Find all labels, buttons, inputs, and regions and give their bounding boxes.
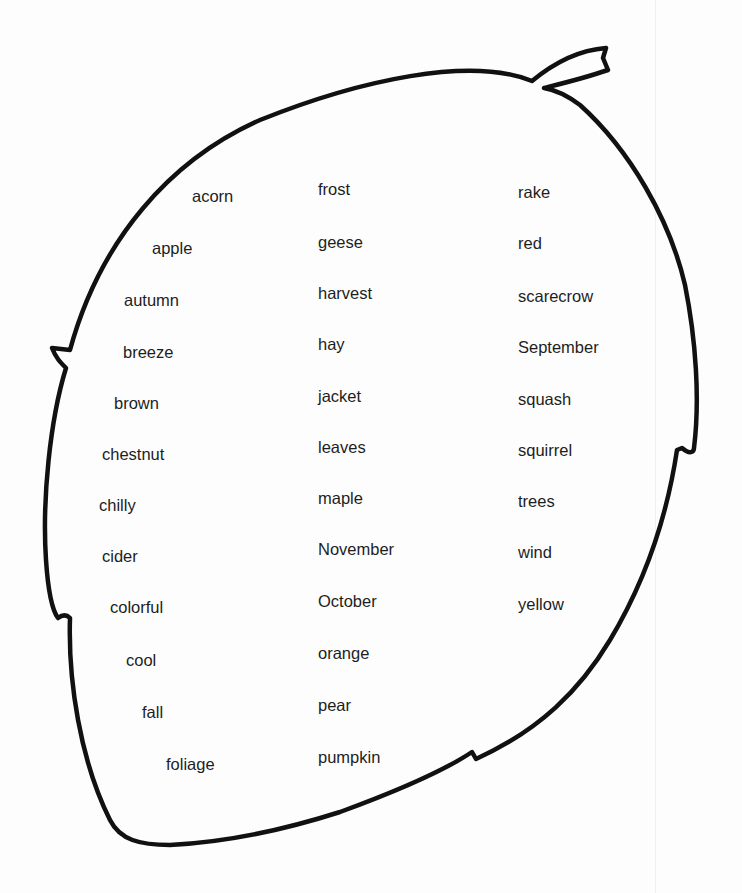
word-list-item: yellow bbox=[518, 594, 564, 614]
word-list-item: leaves bbox=[318, 437, 366, 457]
word-list-item: squirrel bbox=[518, 440, 572, 460]
word-list-item: apple bbox=[152, 238, 192, 258]
word-list-item: September bbox=[518, 337, 599, 357]
word-list-item: scarecrow bbox=[518, 286, 593, 306]
word-list-item: trees bbox=[518, 491, 555, 511]
word-list-item: foliage bbox=[166, 754, 215, 774]
word-list-item: cool bbox=[126, 650, 156, 670]
word-list-item: maple bbox=[318, 488, 363, 508]
word-list-item: pumpkin bbox=[318, 747, 380, 767]
word-list-item: frost bbox=[318, 179, 350, 199]
word-list-item: breeze bbox=[123, 342, 173, 362]
word-list-item: harvest bbox=[318, 283, 372, 303]
word-list-item: jacket bbox=[318, 386, 361, 406]
word-list-item: squash bbox=[518, 389, 571, 409]
worksheet-page: acornappleautumnbreezebrownchestnutchill… bbox=[0, 0, 742, 893]
word-list-item: acorn bbox=[192, 186, 233, 206]
word-list-item: colorful bbox=[110, 597, 163, 617]
word-list-item: chilly bbox=[99, 495, 136, 515]
word-list-item: chestnut bbox=[102, 444, 164, 464]
word-list-item: wind bbox=[518, 542, 552, 562]
word-list-item: cider bbox=[102, 546, 138, 566]
word-list-item: hay bbox=[318, 334, 345, 354]
word-list-item: geese bbox=[318, 232, 363, 252]
word-list-item: November bbox=[318, 539, 394, 559]
word-list-item: pear bbox=[318, 695, 351, 715]
word-list-item: brown bbox=[114, 393, 159, 413]
word-list-item: fall bbox=[142, 702, 163, 722]
word-list-item: rake bbox=[518, 182, 550, 202]
word-list-item: October bbox=[318, 591, 377, 611]
word-list-item: autumn bbox=[124, 290, 179, 310]
word-list-item: orange bbox=[318, 643, 369, 663]
word-list-item: red bbox=[518, 233, 542, 253]
